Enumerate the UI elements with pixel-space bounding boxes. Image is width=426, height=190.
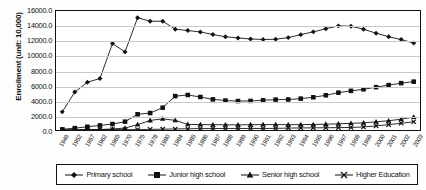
x-tick-label: 1984 [171,133,184,148]
y-tick-label: 0.0 [42,127,52,136]
data-point [324,93,329,98]
series-layer [56,11,420,130]
legend-item-cross[interactable]: Higher Education [334,170,410,180]
data-point [173,94,178,99]
data-point [374,31,379,36]
x-tick-label: 1990 [247,133,260,148]
y-tick-label: 16000.0 [27,6,52,15]
y-tick-label: 4000.0 [31,96,52,105]
legend-item-diamond[interactable]: Primary school [64,170,132,180]
diamond-glyph [71,172,77,178]
data-point [160,19,165,24]
data-point [236,36,241,41]
triangle-marker-icon [240,170,260,180]
data-point [223,34,228,39]
data-point [198,95,203,100]
legend-label: Junior high school [169,170,225,179]
series-line [62,18,413,112]
data-point [173,127,177,130]
data-point [298,96,303,101]
x-tick-label: 2002 [398,133,411,148]
data-point [173,27,178,32]
data-point [186,93,191,98]
gridline [56,117,420,118]
gridline [56,41,420,42]
data-point [311,29,316,34]
data-point [97,76,102,81]
data-point [123,119,128,124]
x-tick-label: 2000 [373,133,386,148]
data-point [160,105,165,110]
data-point [123,49,128,54]
data-point [286,35,291,40]
gridline [56,56,420,57]
legend-label: Primary school [86,170,132,179]
data-point [399,81,404,86]
y-axis-tick-labels: 16000.014000.012000.010000.08000.06000.0… [8,10,52,131]
y-tick-label: 12000.0 [27,36,52,45]
data-point [135,112,140,117]
x-tick-label: 1952 [70,133,83,148]
cross-marker-icon [334,170,354,180]
x-tick-label: 1989 [234,133,247,148]
x-tick-label: 1988 [222,133,235,148]
data-point [148,111,153,116]
x-tick-label: 1970 [121,133,134,148]
y-tick-label: 8000.0 [31,66,52,75]
data-point [386,34,391,39]
data-point [148,19,153,24]
x-tick-label: 1965 [108,133,121,148]
data-point [198,29,203,34]
y-tick-label: 2000.0 [31,111,52,120]
x-tick-label: 1986 [196,133,209,148]
enrollment-line-chart: Enrollment (unit: 10,000) 16000.014000.0… [0,0,426,190]
x-tick-label: 1957 [83,133,96,148]
gridline [56,26,420,27]
square-marker-icon [147,170,167,180]
x-tick-label: 1949 [57,133,70,148]
x-tick-label: 1978 [146,133,159,148]
data-point [60,109,65,114]
x-tick-label: 1980 [158,133,171,148]
legend-item-square[interactable]: Junior high school [147,170,225,180]
diamond-marker-icon [64,170,84,180]
x-tick-label: 1962 [95,133,108,148]
data-point [210,32,215,37]
data-point [361,27,366,32]
data-point [185,28,190,33]
data-point [411,79,416,84]
gridline [56,102,420,103]
plot-area [55,10,421,131]
x-tick-label: 1996 [322,133,335,148]
y-tick-label: 10000.0 [27,51,52,60]
x-axis-tick-labels: 1949195219571962196519701975197819801984… [55,131,421,161]
x-tick-label: 1998 [348,133,361,148]
legend-item-triangle[interactable]: Senior high school [240,170,319,180]
x-tick-label: 1987 [209,133,222,148]
x-tick-label: 2001 [386,133,399,148]
y-tick-label: 6000.0 [31,81,52,90]
x-tick-label: 1995 [310,133,323,148]
data-point [361,87,366,92]
x-tick-label: 1999 [360,133,373,148]
x-tick-label: 1993 [285,133,298,148]
x-tick-label: 1992 [272,133,285,148]
gridline [56,72,420,73]
x-tick-label: 1994 [297,133,310,148]
triangle-glyph [247,171,254,177]
y-tick-label: 14000.0 [27,21,52,30]
data-point [349,89,354,94]
data-point [311,95,316,100]
x-tick-label: 2003 [411,133,424,148]
x-tick-label: 1991 [259,133,272,148]
square-glyph [154,172,160,178]
data-point [336,90,341,95]
legend-label: Higher Education [356,170,410,179]
legend-label: Senior high school [262,170,319,179]
chart-legend: Primary schoolJunior high schoolSenior h… [56,164,418,185]
data-point [298,32,303,37]
x-tick-label: 1975 [133,133,146,148]
x-tick-label: 1997 [335,133,348,148]
gridline [56,87,420,88]
data-point [110,122,115,127]
